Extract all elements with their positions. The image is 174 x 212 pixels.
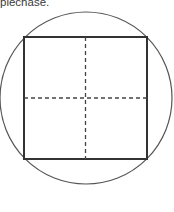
inscribed-square-diagram [0, 0, 174, 212]
inscribed-square [24, 37, 147, 159]
diagram-canvas: plechase. [0, 0, 174, 212]
